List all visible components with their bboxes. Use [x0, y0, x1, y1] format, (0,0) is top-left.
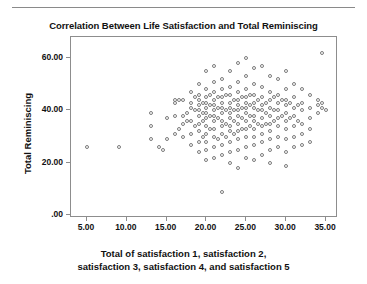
- data-point: [197, 103, 201, 107]
- chart-title: Correlation Between Life Satisfaction an…: [0, 20, 367, 31]
- data-point: [220, 153, 224, 157]
- data-point: [193, 108, 197, 112]
- data-point: [276, 145, 280, 149]
- data-point: [292, 124, 296, 128]
- data-point: [284, 111, 288, 115]
- data-point: [193, 95, 197, 99]
- y-axis-label: Total Reminiscing: [22, 84, 33, 184]
- data-point: [316, 111, 320, 115]
- x-tick-label: 15.00: [144, 222, 188, 232]
- data-point: [252, 114, 256, 118]
- data-point: [204, 140, 208, 144]
- data-point: [292, 95, 296, 99]
- data-point: [193, 124, 197, 128]
- data-point: [252, 143, 256, 147]
- data-point: [189, 132, 193, 136]
- data-point: [292, 135, 296, 139]
- data-point: [308, 127, 312, 131]
- data-point: [220, 143, 224, 147]
- data-point: [236, 90, 240, 94]
- data-point: [260, 64, 264, 68]
- data-points-layer: [71, 37, 336, 216]
- data-point: [252, 127, 256, 131]
- x-axis-label: Total of satisfaction 1, satisfaction 2,…: [0, 248, 367, 273]
- data-point: [236, 61, 240, 65]
- data-point: [177, 98, 181, 102]
- data-point: [268, 90, 272, 94]
- data-point: [224, 135, 228, 139]
- x-tick: [285, 217, 286, 221]
- x-tick-label: 35.00: [303, 222, 347, 232]
- x-tick-label: 20.00: [183, 222, 227, 232]
- data-point: [268, 129, 272, 133]
- data-point: [236, 80, 240, 84]
- data-point: [256, 98, 260, 102]
- data-point: [300, 101, 304, 105]
- data-point: [276, 135, 280, 139]
- data-point: [161, 148, 165, 152]
- data-point: [228, 150, 232, 154]
- data-point: [236, 166, 240, 170]
- data-point: [244, 74, 248, 78]
- data-point: [260, 153, 264, 157]
- data-point: [189, 143, 193, 147]
- data-point: [212, 145, 216, 149]
- data-point: [189, 119, 193, 123]
- y-tick: [66, 109, 70, 110]
- data-point: [244, 119, 248, 123]
- data-point: [292, 114, 296, 118]
- data-point: [260, 132, 264, 136]
- data-point: [268, 137, 272, 141]
- data-point: [260, 85, 264, 89]
- y-tick: [66, 214, 70, 215]
- data-point: [177, 127, 181, 131]
- data-point: [324, 108, 328, 112]
- x-tick: [126, 217, 127, 221]
- data-point: [212, 156, 216, 160]
- data-point: [212, 127, 216, 131]
- data-point: [165, 137, 169, 141]
- data-point: [252, 82, 256, 86]
- data-point: [308, 140, 312, 144]
- data-point: [260, 116, 264, 120]
- data-point: [204, 158, 208, 162]
- data-point: [220, 87, 224, 91]
- x-tick-label: 10.00: [104, 222, 148, 232]
- data-point: [320, 101, 324, 105]
- data-point: [228, 93, 232, 97]
- data-point: [228, 140, 232, 144]
- data-point: [228, 69, 232, 73]
- data-point: [212, 64, 216, 68]
- data-point: [197, 108, 201, 112]
- data-point: [197, 129, 201, 133]
- data-point: [165, 116, 169, 120]
- data-point: [308, 116, 312, 120]
- data-point: [220, 111, 224, 115]
- data-point: [236, 122, 240, 126]
- data-point: [204, 148, 208, 152]
- data-point: [228, 111, 232, 115]
- data-point: [276, 93, 280, 97]
- data-point: [276, 77, 280, 81]
- data-point: [300, 132, 304, 136]
- data-point: [85, 145, 89, 149]
- x-tick: [325, 217, 326, 221]
- x-tick: [245, 217, 246, 221]
- data-point: [284, 137, 288, 141]
- data-point: [236, 137, 240, 141]
- y-tick-label: .00: [18, 209, 63, 219]
- data-point: [228, 161, 232, 165]
- data-point: [197, 93, 201, 97]
- data-point: [197, 82, 201, 86]
- data-point: [220, 77, 224, 81]
- data-point: [181, 135, 185, 139]
- data-point: [244, 87, 248, 91]
- data-point: [308, 106, 312, 110]
- data-point: [260, 140, 264, 144]
- data-point: [276, 124, 280, 128]
- data-point: [252, 66, 256, 70]
- data-point: [220, 101, 224, 105]
- data-point: [284, 69, 288, 73]
- x-axis-label-line1: Total of satisfaction 1, satisfaction 2,: [101, 248, 267, 259]
- data-point: [212, 90, 216, 94]
